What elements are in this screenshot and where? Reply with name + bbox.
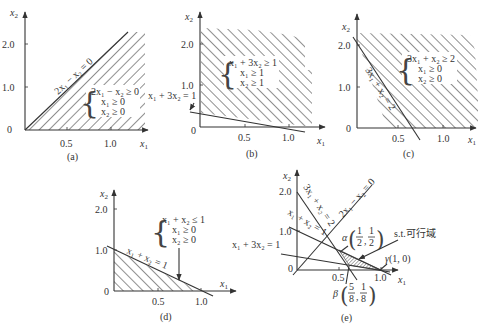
tick-label: 0.5 <box>238 132 251 143</box>
svg-text:): ) <box>368 283 377 308</box>
svg-text:,: , <box>356 291 359 302</box>
tick-label: 0.5 <box>332 272 345 283</box>
panel-b: 0 1.0 2.0 0.5 1.0 x1 x2 { x₁ + 3x₂ ≥ 1 x… <box>148 11 325 160</box>
constraint: x₂ ≥ 0 <box>172 234 196 245</box>
line-label: x₁ + 3x₂ = 1 <box>232 239 280 250</box>
caption: (d) <box>160 311 172 323</box>
caption: (a) <box>67 151 78 163</box>
panel-c: 0 1.0 2.0 0.5 1.0 x1 x2 3x₁ + x₂ = 2 { 3… <box>338 14 478 160</box>
svg-text:(: ( <box>340 283 349 308</box>
panel-e: 0 1.0 2.0 0.5 1.0 x1 x2 3x₁ + x₂ = 2 2x₁… <box>232 170 436 324</box>
panel-a: 0 1.0 2.0 0.5 1.0 x1 x2 2x₁ − x₂ = 0 { 2… <box>2 7 148 163</box>
svg-text:,: , <box>364 235 367 246</box>
point-alpha-label: α ( 1 2 , 1 2 ) <box>340 225 385 252</box>
x1-axis-label: x1 <box>397 274 406 287</box>
svg-text:1: 1 <box>357 225 362 236</box>
tick-label: 2.0 <box>2 39 15 50</box>
tick-label: 1.0 <box>2 82 15 93</box>
tick-label: 2.0 <box>181 39 194 50</box>
tick-label: 1.0 <box>374 272 387 283</box>
caption: (c) <box>403 148 414 160</box>
svg-text:2: 2 <box>369 237 374 248</box>
x2-axis-label: x2 <box>184 11 193 24</box>
tick-label: 1.0 <box>437 133 450 144</box>
line-label: x₁ + 3x₂ = 1 <box>148 90 196 101</box>
tick-label: 0.5 <box>152 296 165 307</box>
x1-axis-label: x1 <box>467 134 476 147</box>
tick-label: 0 <box>191 125 196 136</box>
tick-label: 1.0 <box>195 296 208 307</box>
tick-label: 2.0 <box>95 204 108 215</box>
svg-text:1: 1 <box>369 225 374 236</box>
x2-axis-label: x2 <box>282 170 291 183</box>
svg-text:β: β <box>332 288 338 299</box>
svg-text:5: 5 <box>349 281 354 292</box>
x2-axis-label: x2 <box>341 21 350 34</box>
constraint: x₂ ≥ 1 <box>240 77 264 88</box>
tick-label: 0 <box>7 124 12 135</box>
tick-label: 0.5 <box>392 133 405 144</box>
svg-text:1: 1 <box>361 281 366 292</box>
svg-text:8: 8 <box>361 293 366 304</box>
tick-label: 1.0 <box>282 132 295 143</box>
tick-label: 1.0 <box>338 82 351 93</box>
x2-axis-label: x2 <box>99 188 108 201</box>
lp-feasible-regions-figure: 0 1.0 2.0 0.5 1.0 x1 x2 2x₁ − x₂ = 0 { 2… <box>0 0 490 330</box>
tick-label: 1.0 <box>95 245 108 256</box>
tick-label: 0 <box>346 123 351 134</box>
svg-text:2: 2 <box>357 237 362 248</box>
tick-label: 0 <box>288 263 293 274</box>
caption: (e) <box>341 312 352 324</box>
constraint: x₂ ≥ 0 <box>101 106 125 117</box>
tick-label: 2.0 <box>279 186 292 197</box>
svg-text:8: 8 <box>349 293 354 304</box>
caption: (b) <box>246 148 258 160</box>
tick-label: 0.5 <box>60 138 73 149</box>
tick-label: 1.0 <box>279 226 292 237</box>
line-label: 2x₁ − x₂ = 0 <box>336 176 376 219</box>
tick-label: 1.0 <box>104 138 117 149</box>
tick-label: 0 <box>104 286 109 297</box>
x1-axis-label: x1 <box>316 135 325 148</box>
x2-axis-label: x2 <box>9 7 18 20</box>
feasible-region-label: s.t.可行域 <box>394 227 436 239</box>
panel-d: 0 1.0 2.0 0.5 1.0 x1 x2 x₁ + x₂ = 1 { x₁… <box>95 188 236 323</box>
svg-text:(: ( <box>348 227 357 252</box>
x1-axis-label: x1 <box>219 278 228 291</box>
x1-axis-label: x1 <box>139 138 148 151</box>
constraint: x₂ ≥ 0 <box>418 73 442 84</box>
tick-label: 2.0 <box>338 40 351 51</box>
point-gamma-label: γ(1, 0) <box>385 253 411 265</box>
